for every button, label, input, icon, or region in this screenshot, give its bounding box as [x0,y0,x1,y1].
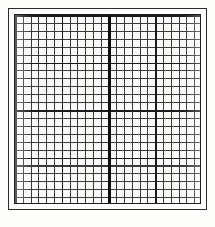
grid-plate [14,14,201,204]
caption [0,0,1,1]
page-title: Blank square grid graph paper [0,21,1,22]
center-vertical-axis-line [108,15,110,203]
graph-paper-page: Blank square grid graph paper [0,0,215,227]
